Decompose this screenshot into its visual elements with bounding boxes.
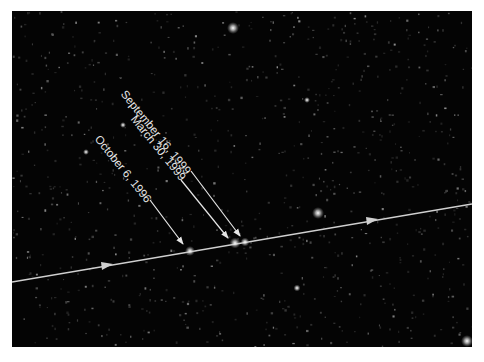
background-noise <box>12 12 472 348</box>
star-field-svg <box>12 11 472 347</box>
position-marker <box>185 246 195 256</box>
direction-arrow-icon <box>101 262 113 270</box>
star <box>304 97 310 103</box>
star-field-image <box>12 11 472 347</box>
star <box>227 22 239 34</box>
star <box>120 122 126 128</box>
star <box>312 207 324 219</box>
star <box>83 149 89 155</box>
star <box>294 285 301 292</box>
pointer-arrow-sep-1999 <box>191 171 240 236</box>
star <box>461 335 472 347</box>
position-marker <box>230 238 241 249</box>
pointer-arrow-oct-1996 <box>150 200 183 244</box>
position-marker <box>241 238 250 247</box>
